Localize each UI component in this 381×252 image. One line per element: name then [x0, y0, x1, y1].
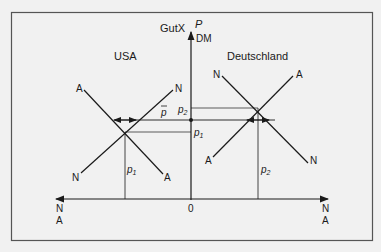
price-axis-label: P [195, 18, 203, 30]
de-p2-label: p2 [260, 164, 271, 176]
de-label-a-bottom: A [205, 155, 212, 166]
world-trade-diagram: GutX P DM 0 N A N A USA Deutschland A N … [0, 0, 381, 252]
de-label-n-top: N [213, 69, 220, 80]
country-usa: USA [114, 50, 137, 62]
pbar-point [189, 118, 193, 122]
p1-label: p1 [193, 127, 204, 139]
pbar-label: p [160, 107, 167, 118]
good-label: GutX [160, 22, 186, 34]
left-axis-n: N [56, 203, 63, 214]
usa-demand-curve [81, 90, 173, 173]
left-axis-a: A [56, 215, 63, 226]
usa-p1-label: p1 [126, 164, 137, 176]
de-label-a-top: A [296, 69, 303, 80]
usa-label-a-bottom: A [164, 172, 171, 183]
country-germany: Deutschland [227, 50, 288, 62]
de-supply-curve [213, 76, 293, 157]
p2-label: p2 [177, 104, 188, 116]
right-axis-n: N [322, 203, 329, 214]
currency-label: DM [196, 33, 212, 44]
right-axis-a: A [322, 215, 329, 226]
usa-label-a-top: A [76, 83, 83, 94]
origin-label: 0 [188, 203, 194, 214]
usa-label-n-bottom: N [72, 172, 79, 183]
de-label-n-bottom: N [310, 155, 317, 166]
usa-label-n-top: N [175, 83, 182, 94]
